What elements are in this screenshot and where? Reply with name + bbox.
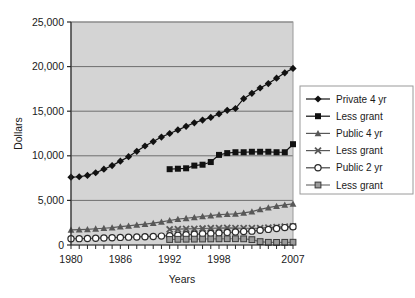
marker-square <box>191 163 197 169</box>
marker-square-shaded <box>224 236 230 242</box>
marker-square <box>208 159 214 165</box>
marker-square <box>249 149 255 155</box>
marker-square-shaded-body <box>208 236 214 242</box>
x-axis-tick-label: 2007 <box>281 253 305 265</box>
marker-square-shaded-body <box>257 239 263 245</box>
legend-label: Public 2 yr <box>336 162 383 173</box>
x-axis-tick-label: 1998 <box>207 253 231 265</box>
marker-circle-open <box>273 225 279 231</box>
marker-square-shaded <box>233 236 239 242</box>
y-axis: 05,00010,00015,00020,00025,000 <box>32 16 71 251</box>
marker-square <box>232 149 238 155</box>
x-axis-title: Years <box>169 273 195 285</box>
marker-square <box>175 166 181 172</box>
marker-circle-open <box>216 230 222 236</box>
marker-square <box>257 149 263 155</box>
marker-square-shaded-body <box>224 236 230 242</box>
legend-label: Less grant <box>336 111 383 122</box>
marker-square <box>216 152 222 158</box>
y-axis-tick-label: 10,000 <box>32 149 64 161</box>
marker-circle-open <box>125 234 131 240</box>
marker-circle-open <box>315 165 321 171</box>
legend-label: Less grant <box>336 180 383 191</box>
legend-label: Private 4 yr <box>336 94 387 105</box>
marker-square-shaded-body <box>200 236 206 242</box>
marker-circle-open <box>134 234 140 240</box>
marker-square-shaded <box>290 239 296 245</box>
marker-square-shaded <box>265 239 271 245</box>
x-axis: 19801986199219982007 <box>59 245 305 265</box>
marker-square-shaded-body <box>265 239 271 245</box>
marker-circle-open <box>76 236 82 242</box>
marker-square-shaded-body <box>282 239 288 245</box>
marker-square <box>183 165 189 171</box>
marker-square-shaded <box>315 182 321 188</box>
marker-circle-open <box>232 229 238 235</box>
marker-square <box>274 149 280 155</box>
y-axis-tick-label: 25,000 <box>32 16 64 28</box>
marker-circle-open <box>84 235 90 241</box>
marker-square <box>315 113 321 119</box>
marker-square-shaded <box>208 236 214 242</box>
marker-square-shaded-body <box>249 237 255 243</box>
marker-square-shaded <box>216 236 222 242</box>
marker-circle-open <box>142 234 148 240</box>
marker-square-shaded <box>257 239 263 245</box>
line-chart: 05,00010,00015,00020,00025,0001980198619… <box>0 0 415 298</box>
marker-square-shaded <box>167 237 173 243</box>
marker-square-shaded <box>241 236 247 242</box>
marker-square <box>224 150 230 156</box>
x-axis-tick-label: 1980 <box>59 253 83 265</box>
marker-circle-open <box>117 234 123 240</box>
y-axis-tick-label: 20,000 <box>32 60 64 72</box>
marker-circle-open <box>93 235 99 241</box>
marker-square-shaded <box>282 239 288 245</box>
chart-figure: 05,00010,00015,00020,00025,0001980198619… <box>0 0 415 298</box>
x-axis-tick-label: 1986 <box>109 253 133 265</box>
marker-circle-open <box>265 226 271 232</box>
marker-square <box>167 166 173 172</box>
legend-label: Public 4 yr <box>336 128 383 139</box>
marker-square <box>265 149 271 155</box>
marker-square-shaded <box>175 236 181 242</box>
legend: Private 4 yrLess grantPublic 4 yrLess gr… <box>300 86 413 194</box>
marker-circle-open <box>241 229 247 235</box>
y-axis-tick-label: 15,000 <box>32 105 64 117</box>
marker-square-shaded <box>191 236 197 242</box>
marker-square-shaded-body <box>191 236 197 242</box>
x-axis-tick-label: 1992 <box>158 253 182 265</box>
marker-circle-open <box>249 228 255 234</box>
y-axis-tick-label: 5,000 <box>38 194 64 206</box>
marker-circle-open <box>224 229 230 235</box>
marker-square-shaded-body <box>175 236 181 242</box>
y-axis-title: Dollars <box>12 117 24 150</box>
marker-square <box>200 162 206 168</box>
marker-square-shaded <box>200 236 206 242</box>
marker-square-shaded <box>249 237 255 243</box>
marker-square <box>290 141 296 147</box>
marker-circle-open <box>109 235 115 241</box>
marker-square <box>241 149 247 155</box>
legend-label: Less grant <box>336 145 383 156</box>
marker-square-shaded-body <box>216 236 222 242</box>
marker-circle-open <box>282 225 288 231</box>
marker-square-shaded <box>183 236 189 242</box>
marker-circle-open <box>158 233 164 239</box>
marker-square-shaded-body <box>315 182 321 188</box>
marker-square-shaded-body <box>233 236 239 242</box>
marker-square-shaded-body <box>290 239 296 245</box>
marker-circle-open <box>150 233 156 239</box>
marker-circle-open <box>101 235 107 241</box>
marker-square-shaded-body <box>167 237 173 243</box>
marker-square-shaded-body <box>183 236 189 242</box>
marker-circle-open <box>290 224 296 230</box>
marker-square <box>282 149 288 155</box>
y-axis-tick-label: 0 <box>58 239 64 251</box>
marker-circle-open <box>257 227 263 233</box>
marker-square-shaded-body <box>241 236 247 242</box>
